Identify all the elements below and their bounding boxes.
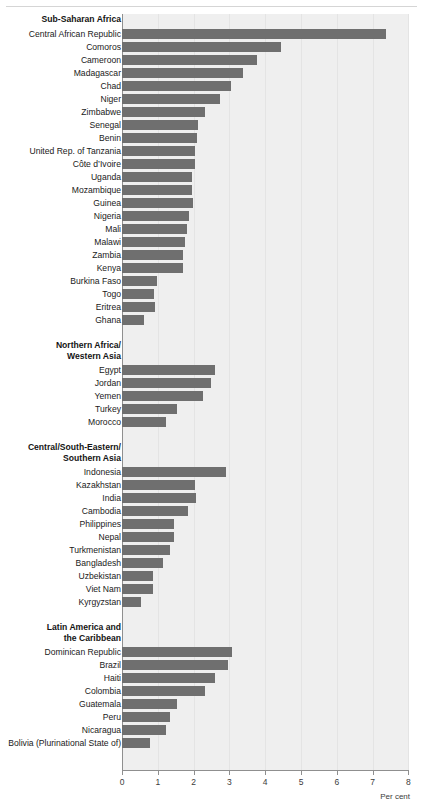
group-heading: Sub-Saharan Africa — [0, 14, 423, 26]
x-axis-tick-label: 7 — [370, 777, 375, 787]
chart-row: Brazil — [0, 659, 423, 672]
group-heading-line: Southern Asia — [63, 453, 121, 465]
chart-row: Haiti — [0, 672, 423, 685]
category-label: Burkina Faso — [70, 275, 121, 288]
chart-row: Kyrgyzstan — [0, 596, 423, 609]
category-label: Brazil — [100, 659, 122, 672]
value-bar — [122, 597, 141, 607]
category-label: Viet Nam — [86, 583, 121, 596]
category-label: Indonesia — [84, 466, 121, 479]
category-label: Nigeria — [94, 210, 121, 223]
group-heading: Central/South-Eastern/Southern Asia — [0, 442, 423, 465]
chart-row: Mozambique — [0, 184, 423, 197]
value-bar — [122, 42, 281, 52]
value-bar — [122, 391, 203, 401]
value-bar — [122, 172, 192, 182]
value-bar — [122, 198, 193, 208]
group-heading-line: the Caribbean — [64, 633, 121, 645]
category-label: Malawi — [94, 236, 121, 249]
chart-row: Nicaragua — [0, 724, 423, 737]
x-axis-tick-label: 4 — [263, 777, 268, 787]
chart-row: Malawi — [0, 236, 423, 249]
category-label: Dominican Republic — [45, 646, 121, 659]
category-label: Ghana — [95, 314, 121, 327]
chart-row: Guatemala — [0, 698, 423, 711]
x-axis-tick-label: 8 — [406, 777, 411, 787]
category-label: Philippines — [79, 518, 121, 531]
chart-row: Turkmenistan — [0, 544, 423, 557]
category-label: United Rep. of Tanzania — [29, 145, 121, 158]
chart-row: Central African Republic — [0, 28, 423, 41]
value-bar — [122, 699, 177, 709]
chart-row: India — [0, 492, 423, 505]
chart-row: Dominican Republic — [0, 646, 423, 659]
category-label: Morocco — [88, 416, 121, 429]
category-label: Haiti — [104, 672, 121, 685]
x-axis-tick-label: 2 — [191, 777, 196, 787]
value-bar — [122, 545, 170, 555]
chart-row: Mali — [0, 223, 423, 236]
category-label: Eritrea — [96, 301, 121, 314]
value-bar — [122, 725, 166, 735]
value-bar — [122, 506, 188, 516]
chart-row: Turkey — [0, 403, 423, 416]
category-label: Central African Republic — [29, 28, 121, 41]
category-label: Peru — [103, 711, 121, 724]
category-label: Kazakhstan — [76, 479, 121, 492]
category-label: Guinea — [93, 197, 121, 210]
value-bar — [122, 289, 154, 299]
chart-row: Morocco — [0, 416, 423, 429]
value-bar — [122, 519, 174, 529]
x-axis-tick — [373, 771, 374, 775]
chart-row: Bangladesh — [0, 557, 423, 570]
category-label: Jordan — [95, 377, 121, 390]
chart-row: Egypt — [0, 364, 423, 377]
value-bar — [122, 480, 195, 490]
category-label: Guatemala — [79, 698, 121, 711]
category-label: Cameroon — [81, 54, 121, 67]
x-axis-tick — [408, 771, 409, 775]
x-axis-tick — [158, 771, 159, 775]
category-label: Chad — [100, 80, 121, 93]
group-heading-line: Northern Africa/ — [56, 340, 121, 352]
category-label: Comoros — [86, 41, 121, 54]
category-label: Côte d’Ivoire — [73, 158, 121, 171]
x-axis-tick — [122, 771, 123, 775]
value-bar — [122, 55, 257, 65]
x-axis-title: Per cent — [380, 792, 410, 801]
category-label: Senegal — [89, 119, 121, 132]
x-axis-tick — [301, 771, 302, 775]
chart-row: Viet Nam — [0, 583, 423, 596]
category-label: Colombia — [85, 685, 121, 698]
chart-page: Sub-Saharan AfricaCentral African Republ… — [0, 0, 423, 809]
group-heading-line: Latin America and — [47, 622, 121, 634]
category-label: Mozambique — [72, 184, 121, 197]
chart-row: Madagascar — [0, 67, 423, 80]
value-bar — [122, 224, 187, 234]
category-label: Bangladesh — [76, 557, 121, 570]
value-bar — [122, 467, 226, 477]
chart-row: Indonesia — [0, 466, 423, 479]
value-bar — [122, 68, 243, 78]
chart-row: Philippines — [0, 518, 423, 531]
chart-row: Côte d’Ivoire — [0, 158, 423, 171]
category-label: Uzbekistan — [78, 570, 121, 583]
chart-row: Burkina Faso — [0, 275, 423, 288]
value-bar — [122, 237, 185, 247]
group-heading-line: Western Asia — [67, 351, 121, 363]
value-bar — [122, 712, 170, 722]
value-bar — [122, 378, 211, 388]
chart-row: United Rep. of Tanzania — [0, 145, 423, 158]
category-label: Zimbabwe — [81, 106, 121, 119]
chart-row: Senegal — [0, 119, 423, 132]
value-bar — [122, 532, 174, 542]
category-label: Niger — [100, 93, 121, 106]
value-bar — [122, 404, 177, 414]
value-bar — [122, 571, 153, 581]
chart-row: Benin — [0, 132, 423, 145]
chart-row: Zambia — [0, 249, 423, 262]
chart-row: Kenya — [0, 262, 423, 275]
x-axis-tick — [194, 771, 195, 775]
value-bar — [122, 660, 228, 670]
chart-row: Kazakhstan — [0, 479, 423, 492]
